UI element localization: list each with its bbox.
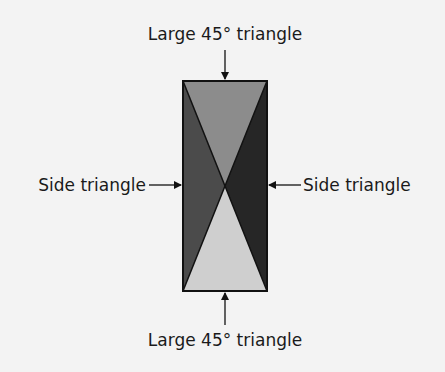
- right-label: Side triangle: [303, 175, 411, 195]
- bottom-label: Large 45° triangle: [0, 330, 445, 350]
- rectangle: [183, 81, 267, 291]
- top-label: Large 45° triangle: [0, 24, 445, 44]
- left-label: Side triangle: [38, 175, 146, 195]
